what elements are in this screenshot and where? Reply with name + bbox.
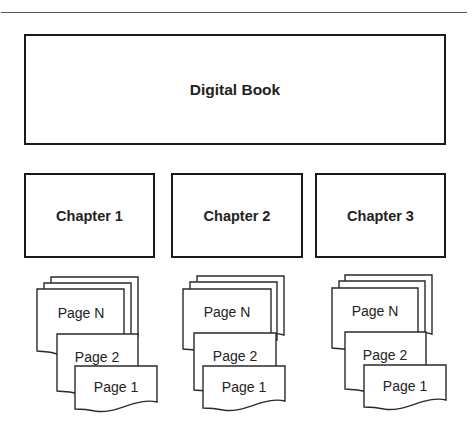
chapter-2-page-1-label: Page 1 bbox=[222, 379, 267, 395]
page-stacks: Page N Page 2 Page 1 Page N Page 2 Page … bbox=[0, 0, 474, 432]
chapter-1-page-n-label: Page N bbox=[58, 305, 105, 321]
chapter-2-page-n-label: Page N bbox=[204, 304, 251, 320]
chapter-3-page-1-label: Page 1 bbox=[383, 378, 428, 394]
chapter-1-page-2-label: Page 2 bbox=[75, 349, 120, 365]
chapter-3-page-n-label: Page N bbox=[352, 303, 399, 319]
chapter-2-page-2-label: Page 2 bbox=[213, 348, 258, 364]
chapter-3-page-2-label: Page 2 bbox=[363, 347, 408, 363]
chapter-1-page-1-label: Page 1 bbox=[94, 379, 139, 395]
